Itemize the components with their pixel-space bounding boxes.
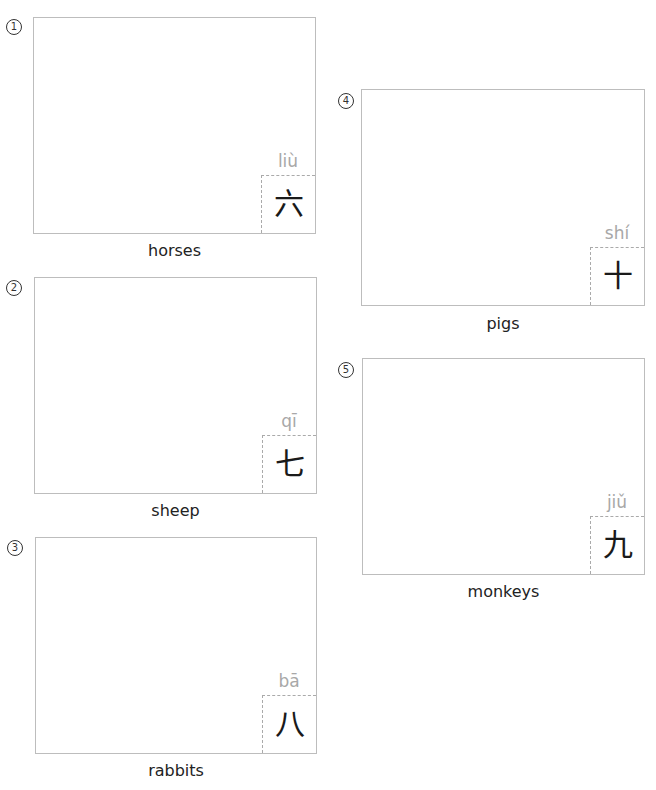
drawing-area[interactable]: liù 六 xyxy=(33,17,316,234)
item-number-badge: 5 xyxy=(338,362,354,378)
drawing-area[interactable]: jiǔ 九 xyxy=(362,358,645,575)
character-box: 七 xyxy=(262,435,316,493)
drawing-area[interactable]: shí 十 xyxy=(361,89,645,306)
pinyin-label: liù xyxy=(261,151,315,171)
pinyin-label: shí xyxy=(590,223,644,243)
item-number-badge: 2 xyxy=(6,280,22,296)
item-number-badge: 1 xyxy=(6,19,22,35)
chinese-character: 七 xyxy=(263,442,316,486)
drawing-area[interactable]: qī 七 xyxy=(34,277,317,494)
character-box: 六 xyxy=(261,175,315,233)
pinyin-label: jiǔ xyxy=(590,492,644,512)
chinese-character: 十 xyxy=(591,254,644,298)
chinese-character: 六 xyxy=(262,182,315,226)
item-label: horses xyxy=(33,241,316,261)
character-box: 八 xyxy=(262,695,316,753)
drawing-area[interactable]: bā 八 xyxy=(35,537,317,754)
character-box: 九 xyxy=(590,516,644,574)
item-label: pigs xyxy=(361,314,645,334)
item-label: sheep xyxy=(34,501,317,521)
item-label: rabbits xyxy=(35,761,317,781)
pinyin-label: qī xyxy=(262,411,316,431)
item-label: monkeys xyxy=(362,582,645,602)
character-box: 十 xyxy=(590,247,644,305)
chinese-character: 九 xyxy=(591,523,644,567)
item-number-badge: 3 xyxy=(7,540,23,556)
item-number-badge: 4 xyxy=(338,93,354,109)
pinyin-label: bā xyxy=(262,671,316,691)
chinese-character: 八 xyxy=(263,702,316,746)
